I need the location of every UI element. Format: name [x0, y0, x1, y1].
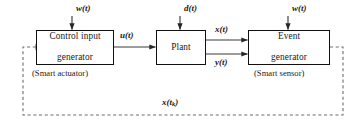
caption-smart-actuator: (Smart actuator): [32, 68, 88, 78]
caption-smart-sensor: (Smart sensor): [254, 68, 304, 78]
signal-label-u: u(t): [120, 30, 134, 40]
signal-label-w-left: w(t): [76, 3, 91, 13]
block-control-input-generator[interactable]: Control input generator: [36, 30, 114, 65]
block-plant[interactable]: Plant: [156, 30, 206, 65]
signal-label-d-center: d(t): [184, 3, 197, 13]
signal-label-sampled-state: x(tk): [162, 97, 178, 107]
block-label-line1: Event: [271, 31, 307, 42]
signal-label-x: x(t): [215, 24, 228, 34]
block-label-line1: Control input: [49, 31, 100, 42]
block-label-line2: generator: [271, 52, 307, 63]
block-diagram: Control input generator Plant Event gene…: [0, 0, 353, 125]
signal-label-y: y(t): [215, 57, 228, 67]
sampled-state-close: ): [175, 97, 178, 107]
block-label-plant: Plant: [171, 42, 191, 53]
block-label-line2: generator: [49, 52, 100, 63]
sampled-state-base: x(t: [162, 97, 172, 107]
block-label-control-input-generator: Control input generator: [49, 31, 100, 63]
block-label-event-generator: Event generator: [271, 31, 307, 63]
signal-label-w-right: w(t): [292, 3, 307, 13]
block-event-generator[interactable]: Event generator: [248, 30, 330, 65]
